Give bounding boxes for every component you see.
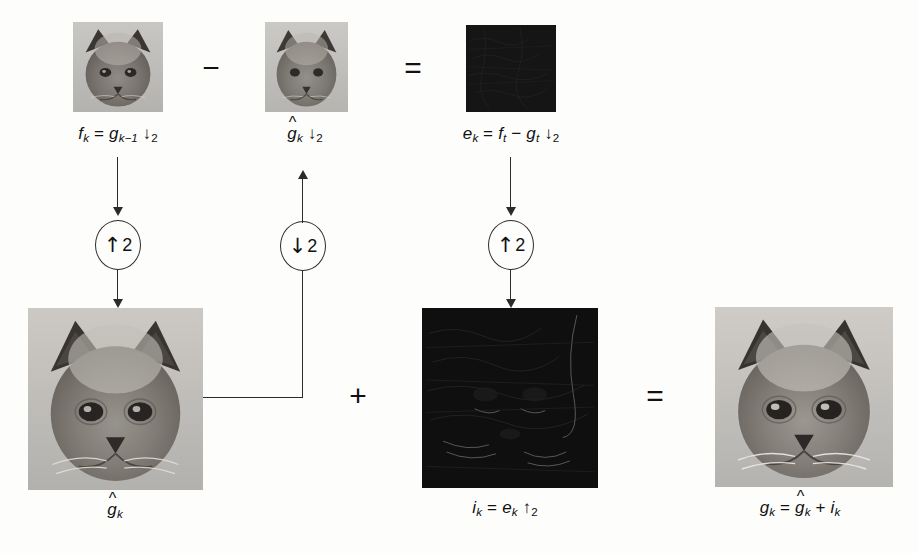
g-hat-k-image bbox=[265, 22, 348, 112]
plus-operator: + bbox=[349, 381, 367, 411]
label-gk: gk = ^gk + ik bbox=[760, 498, 841, 518]
sampler-factor: 2 bbox=[515, 236, 525, 254]
g-k-image bbox=[715, 307, 893, 487]
label-ghatk: ^gk ↓2 bbox=[287, 124, 323, 144]
f-k-image bbox=[73, 22, 163, 112]
label-ik: ik = ek ↑2 bbox=[472, 498, 537, 518]
sampler-factor: 2 bbox=[122, 236, 132, 254]
label-ghatk-large: ^gk bbox=[107, 500, 122, 520]
arrowhead-ek-to-upsampler bbox=[506, 207, 516, 216]
label-ek: ek = ft − gt ↓2 bbox=[463, 124, 560, 144]
arrowhead-fk-to-upsampler bbox=[113, 207, 123, 216]
down-arrow-icon: ↓ bbox=[289, 236, 307, 257]
wire-upsampler-to-ghatk bbox=[117, 269, 118, 302]
equals-operator-bottom: = bbox=[646, 381, 664, 411]
arrowhead-upsampler-to-ghatk bbox=[113, 299, 123, 308]
up-arrow-icon: ↑ bbox=[104, 235, 122, 256]
upsample-2-left[interactable]: ↑ 2 bbox=[95, 220, 141, 270]
figure-canvas: − bbox=[0, 0, 918, 553]
i-k-image bbox=[422, 308, 598, 488]
equals-operator-top: = bbox=[404, 53, 422, 83]
wire-fk-to-upsampler bbox=[117, 157, 118, 209]
label-fk: fk = gk−1 ↓2 bbox=[78, 124, 157, 144]
up-arrow-icon: ↑ bbox=[497, 235, 515, 256]
wire-ghatk-riser bbox=[302, 270, 303, 398]
wire-ghatk-right-stub bbox=[203, 397, 303, 398]
arrowhead-upsampler-to-ik bbox=[506, 299, 516, 308]
upsample-2-right[interactable]: ↑ 2 bbox=[488, 220, 534, 270]
wire-upsampler-to-ik bbox=[510, 269, 511, 302]
g-hat-k-large-image bbox=[28, 308, 203, 490]
wire-downsampler-to-ghatk2 bbox=[302, 178, 303, 223]
sampler-factor: 2 bbox=[307, 237, 317, 255]
downsample-2-mid[interactable]: ↓ 2 bbox=[280, 221, 326, 271]
arrowhead-downsampler-to-ghatk2 bbox=[298, 170, 308, 179]
e-k-image bbox=[466, 25, 556, 112]
wire-ek-to-upsampler bbox=[510, 157, 511, 209]
minus-operator: − bbox=[202, 53, 220, 83]
